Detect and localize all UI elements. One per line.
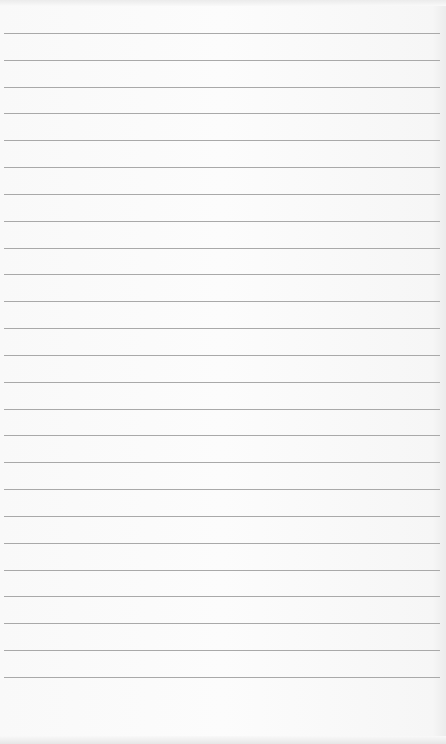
ruled-line [4, 194, 440, 195]
notepad-paper [0, 0, 446, 744]
ruled-line [4, 301, 440, 302]
ruled-line [4, 596, 440, 597]
ruled-line [4, 113, 440, 114]
ruled-line [4, 328, 440, 329]
ruled-line [4, 167, 440, 168]
ruled-line [4, 382, 440, 383]
ruled-line [4, 462, 440, 463]
ruled-line [4, 489, 440, 490]
paper-bottom-edge [0, 736, 446, 744]
ruled-line [4, 543, 440, 544]
ruled-line [4, 435, 440, 436]
ruled-line [4, 87, 440, 88]
ruled-line [4, 650, 440, 651]
ruled-line [4, 677, 440, 678]
paper-top-edge [0, 0, 446, 6]
ruled-line [4, 274, 440, 275]
ruled-line [4, 409, 440, 410]
ruled-line [4, 570, 440, 571]
ruled-line [4, 248, 440, 249]
ruled-line [4, 516, 440, 517]
ruled-line [4, 140, 440, 141]
ruled-line [4, 623, 440, 624]
ruled-line [4, 33, 440, 34]
ruled-line [4, 221, 440, 222]
ruled-line [4, 60, 440, 61]
ruled-line [4, 355, 440, 356]
